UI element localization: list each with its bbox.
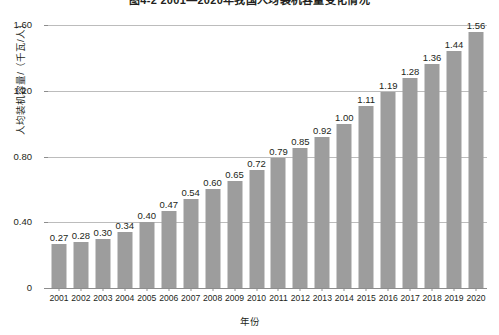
x-axis-tick-label: 2018 [423, 293, 442, 303]
x-axis-tick-label: 2011 [269, 293, 287, 303]
bar-group[interactable]: 0.302003 [92, 25, 114, 288]
x-axis-tick-label: 2008 [203, 293, 222, 303]
bar-group[interactable]: 0.722010 [246, 25, 268, 288]
x-axis-tick-mark [454, 288, 455, 291]
bar[interactable] [315, 137, 330, 288]
bar[interactable] [117, 232, 132, 288]
x-axis-tick-mark [344, 288, 345, 291]
bar-group[interactable]: 0.652009 [224, 25, 246, 288]
bar-group[interactable]: 1.002014 [333, 25, 355, 288]
bar[interactable] [227, 181, 242, 288]
bar[interactable] [249, 170, 264, 288]
bar-value-label: 1.00 [335, 112, 354, 123]
bar[interactable] [271, 158, 286, 288]
bar-value-label: 1.36 [423, 52, 442, 63]
bar[interactable] [381, 92, 396, 288]
gridline [48, 288, 487, 289]
x-axis-tick-mark [212, 288, 213, 291]
bar-group[interactable]: 1.442019 [443, 25, 465, 288]
bar-group[interactable]: 0.792011 [268, 25, 290, 288]
x-axis-tick-mark [476, 288, 477, 291]
bar[interactable] [293, 148, 308, 288]
bar-value-label: 1.19 [379, 80, 398, 91]
x-axis-tick-mark [58, 288, 59, 291]
bar[interactable] [183, 199, 198, 288]
bar-group[interactable]: 0.852012 [289, 25, 311, 288]
bar[interactable] [51, 244, 66, 288]
bar-group[interactable]: 1.282017 [399, 25, 421, 288]
x-axis-tick-label: 2006 [159, 293, 178, 303]
x-axis-tick-label: 2005 [137, 293, 156, 303]
bar-value-label: 1.44 [445, 39, 464, 50]
bar-group[interactable]: 0.472006 [158, 25, 180, 288]
x-axis-tick-mark [146, 288, 147, 291]
bar[interactable] [161, 211, 176, 288]
x-axis-tick-mark [432, 288, 433, 291]
x-axis-tick-label: 2009 [225, 293, 244, 303]
bar-group[interactable]: 0.342004 [114, 25, 136, 288]
x-axis-tick-label: 2012 [291, 293, 310, 303]
x-axis-tick-mark [234, 288, 235, 291]
bar[interactable] [95, 239, 110, 288]
bar-value-label: 0.27 [50, 232, 69, 243]
x-axis-tick-label: 2010 [247, 293, 266, 303]
x-axis-tick-mark [102, 288, 103, 291]
bar-group[interactable]: 1.112015 [355, 25, 377, 288]
x-axis-tick-mark [410, 288, 411, 291]
x-axis-tick-label: 2019 [445, 293, 464, 303]
bar[interactable] [139, 222, 154, 288]
bar-value-label: 1.56 [467, 20, 486, 31]
y-axis-tick-label: 0.40 [0, 216, 32, 227]
bar-value-label: 0.92 [313, 125, 332, 136]
bar-value-label: 0.30 [94, 227, 113, 238]
chart-title: 图4-2 2001—2020年我国人均装机容量变化情况 [0, 0, 499, 7]
x-axis-tick-label: 2001 [49, 293, 68, 303]
x-axis-tick-label: 2015 [357, 293, 376, 303]
bar-value-label: 0.79 [269, 146, 288, 157]
x-axis-tick-mark [300, 288, 301, 291]
x-axis-tick-label: 2004 [115, 293, 134, 303]
bar[interactable] [469, 32, 484, 288]
x-axis-tick-label: 2014 [335, 293, 354, 303]
x-axis-tick-label: 2002 [71, 293, 90, 303]
bar[interactable] [337, 124, 352, 288]
bar-value-label: 0.72 [247, 158, 266, 169]
y-axis-tick-label: 0 [0, 282, 32, 293]
x-axis-tick-mark [80, 288, 81, 291]
x-axis-tick-label: 2017 [401, 293, 420, 303]
bar-group[interactable]: 0.542007 [180, 25, 202, 288]
bar[interactable] [205, 189, 220, 288]
y-axis-tick-label: 0.80 [0, 151, 32, 162]
x-axis-title: 年份 [0, 314, 499, 328]
x-axis-tick-label: 2013 [313, 293, 332, 303]
x-axis-tick-label: 2016 [379, 293, 398, 303]
bar[interactable] [73, 242, 88, 288]
x-axis-tick-mark [124, 288, 125, 291]
bar-group[interactable]: 0.402005 [136, 25, 158, 288]
bar[interactable] [425, 64, 440, 288]
bar-value-label: 0.54 [181, 187, 200, 198]
bar[interactable] [403, 78, 418, 288]
bar[interactable] [447, 51, 462, 288]
bar-group[interactable]: 1.562020 [465, 25, 487, 288]
bar-group[interactable]: 0.272001 [48, 25, 70, 288]
bar-value-label: 0.85 [291, 136, 310, 147]
bar-group[interactable]: 1.192016 [377, 25, 399, 288]
bar-group[interactable]: 0.602008 [202, 25, 224, 288]
bar-group[interactable]: 1.362018 [421, 25, 443, 288]
bar-value-label: 0.60 [203, 177, 222, 188]
bar-value-label: 0.65 [225, 169, 244, 180]
bar[interactable] [359, 106, 374, 288]
bar-value-label: 0.47 [159, 199, 178, 210]
x-axis-tick-mark [256, 288, 257, 291]
x-axis-tick-mark [388, 288, 389, 291]
bar-series: 0.2720010.2820020.3020030.3420040.402005… [48, 25, 487, 288]
x-axis-tick-mark [322, 288, 323, 291]
bar-group[interactable]: 0.922013 [311, 25, 333, 288]
bar-group[interactable]: 0.282002 [70, 25, 92, 288]
x-axis-tick-mark [278, 288, 279, 291]
x-axis-tick-mark [168, 288, 169, 291]
plot-area: 00.400.801.201.60 0.2720010.2820020.3020… [48, 25, 487, 288]
y-axis-tick-mark [44, 288, 48, 289]
bar-value-label: 1.28 [401, 66, 420, 77]
